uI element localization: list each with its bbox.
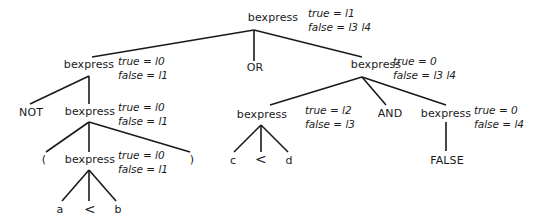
right1-true-attr: true = 0	[393, 54, 456, 68]
node-c: c	[230, 155, 236, 167]
node-a: a	[57, 204, 64, 216]
root-true-attr: true = l1	[308, 6, 371, 20]
falsenode-false-attr: false = l4	[474, 117, 524, 131]
left3-attributes: true = l0 false = l1	[118, 148, 168, 176]
node-left2-bexpress: bexpress	[65, 106, 115, 118]
right1-attributes: true = 0 false = l3 l4	[393, 54, 456, 82]
node-left3-bexpress: bexpress	[65, 154, 115, 166]
node-lparen: (	[42, 154, 46, 166]
parse-tree-diagram: bexpress true = l1 false = l3 l4 bexpres…	[0, 0, 535, 222]
left3-false-attr: false = l1	[118, 162, 168, 176]
falsenode-true-attr: true = 0	[474, 103, 524, 117]
cd-true-attr: true = l2	[305, 103, 355, 117]
root-attributes: true = l1 false = l3 l4	[308, 6, 371, 34]
root-false-attr: false = l3 l4	[308, 20, 371, 34]
left3-true-attr: true = l0	[118, 148, 168, 162]
node-less-than-2: <	[255, 153, 267, 165]
node-false-literal: FALSE	[430, 155, 463, 167]
left2-false-attr: false = l1	[118, 114, 168, 128]
node-or: OR	[247, 62, 264, 74]
node-rparen: )	[190, 154, 194, 166]
left2-true-attr: true = l0	[118, 100, 168, 114]
left1-true-attr: true = l0	[118, 54, 168, 68]
node-cd-bexpress: bexpress	[237, 109, 287, 121]
cd-attributes: true = l2 false = l3	[305, 103, 355, 131]
node-d: d	[285, 155, 292, 167]
node-and: AND	[378, 108, 403, 120]
left1-attributes: true = l0 false = l1	[118, 54, 168, 82]
node-left-bexpress: bexpress	[64, 59, 114, 71]
falsenode-attributes: true = 0 false = l4	[474, 103, 524, 131]
node-not: NOT	[19, 107, 43, 119]
left2-attributes: true = l0 false = l1	[118, 100, 168, 128]
node-false-bexpress: bexpress	[421, 108, 471, 120]
node-less-than-1: <	[84, 203, 96, 215]
cd-false-attr: false = l3	[305, 117, 355, 131]
right1-false-attr: false = l3 l4	[393, 68, 456, 82]
node-b: b	[114, 204, 121, 216]
left1-false-attr: false = l1	[118, 68, 168, 82]
node-root-bexpress: bexpress	[248, 12, 298, 24]
